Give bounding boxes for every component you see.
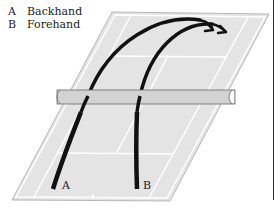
shot-label-backhand: A [61,179,71,192]
shot-label-forehand: B [143,179,151,192]
shot-path-forehand-near [136,112,137,189]
tennis-court-diagram: A B [0,0,279,210]
